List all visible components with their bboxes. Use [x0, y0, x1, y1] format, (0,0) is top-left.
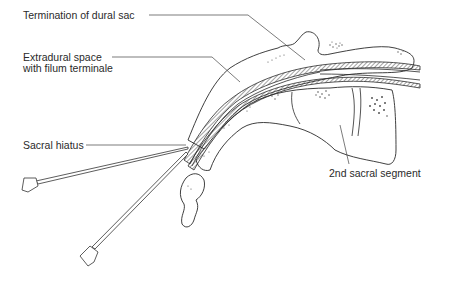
needle-horizontal: [22, 147, 188, 192]
label-filum-terminale: with filum terminale: [23, 62, 113, 74]
coccyx: [180, 174, 204, 227]
diagram-canvas: Termination of dural sac Extradural spac…: [0, 0, 449, 281]
label-2nd-sacral-segment: 2nd sacral segment: [329, 167, 421, 179]
label-termination-dural-sac: Termination of dural sac: [23, 9, 134, 21]
label-sacral-hiatus: Sacral hiatus: [23, 139, 84, 151]
